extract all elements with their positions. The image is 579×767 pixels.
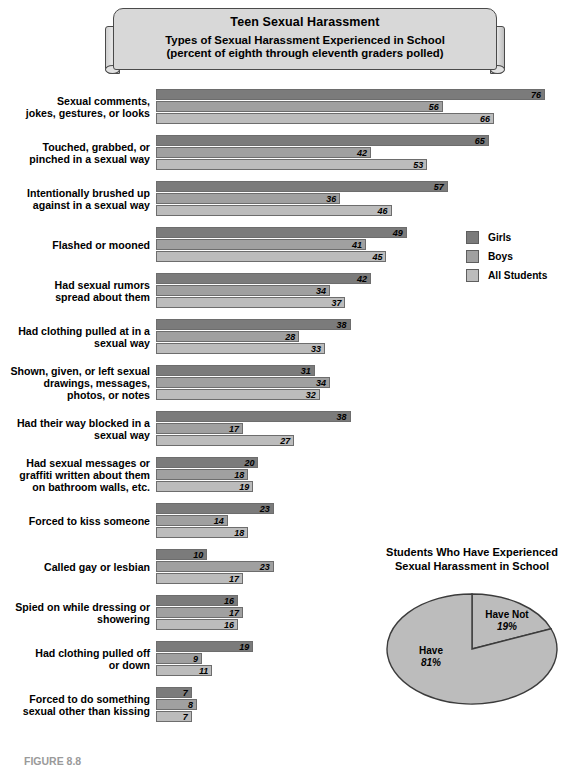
bar-stack: 765666 xyxy=(156,89,545,125)
bar-value-label: 49 xyxy=(393,228,403,237)
bar-group-label-line: Spied on while dressing or xyxy=(0,601,150,613)
bar-stack: 161716 xyxy=(156,595,243,631)
bar: 33 xyxy=(156,343,325,354)
chart-title: Teen Sexual Harassment xyxy=(230,15,379,30)
bar-group-label-line: Called gay or lesbian xyxy=(0,561,150,573)
legend-item: All Students xyxy=(466,266,547,285)
bar-group-label: Called gay or lesbian xyxy=(0,561,150,573)
bar: 8 xyxy=(156,699,197,710)
bar-value-label: 23 xyxy=(260,504,270,513)
bar-value-label: 46 xyxy=(378,206,388,215)
chart-subtitle-line2: (percent of eighth through eleventh grad… xyxy=(165,47,445,60)
bar-value-label: 38 xyxy=(337,320,347,329)
bar-group: Shown, given, or left sexualdrawings, me… xyxy=(0,360,579,406)
bar-value-label: 34 xyxy=(316,286,326,295)
bar: 10 xyxy=(156,549,207,560)
bar-value-label: 8 xyxy=(188,700,193,709)
bar-group-label-line: showering xyxy=(0,613,150,625)
bar-stack: 654253 xyxy=(156,135,489,171)
banner-plate: Teen Sexual Harassment Types of Sexual H… xyxy=(113,8,497,70)
bar-group: Had their way blocked in asexual way3817… xyxy=(0,406,579,452)
bar-value-label: 31 xyxy=(301,366,311,375)
bar-value-label: 37 xyxy=(331,298,341,307)
bar-group: Touched, grabbed, orpinched in a sexual … xyxy=(0,130,579,176)
bar: 32 xyxy=(156,389,320,400)
bar-value-label: 32 xyxy=(306,390,316,399)
bar: 76 xyxy=(156,89,545,100)
bar: 7 xyxy=(156,711,192,722)
bar: 23 xyxy=(156,561,274,572)
bar-value-label: 20 xyxy=(244,458,254,467)
bar-group-label-line: Shown, given, or left sexual xyxy=(0,365,150,377)
pie-chart-block: Students Who Have Experienced Sexual Har… xyxy=(372,546,572,705)
bar-group-label-line: Forced to do something xyxy=(0,693,150,705)
bar-group-label: Had sexual rumorsspread about them xyxy=(0,279,150,303)
bar-value-label: 7 xyxy=(183,712,188,721)
bar-value-label: 11 xyxy=(199,666,208,675)
bar: 38 xyxy=(156,411,351,422)
bar: 20 xyxy=(156,457,258,468)
bar: 41 xyxy=(156,239,366,250)
bar-value-label: 65 xyxy=(475,136,485,145)
bar: 38 xyxy=(156,319,351,330)
bar-stack: 382833 xyxy=(156,319,351,355)
bar-stack: 381727 xyxy=(156,411,351,447)
pie-label-have-name: Have xyxy=(400,645,462,657)
legend-label: All Students xyxy=(488,270,547,281)
bar: 28 xyxy=(156,331,299,342)
bar: 14 xyxy=(156,515,228,526)
bar-group-label-line: on bathroom walls, etc. xyxy=(0,481,150,493)
bar-value-label: 14 xyxy=(214,516,224,525)
bar-group-label: Flashed or mooned xyxy=(0,239,150,251)
bar-group-label: Forced to do somethingsexual other than … xyxy=(0,693,150,717)
bar-group-label-line: Had clothing pulled at in a xyxy=(0,325,150,337)
chart-subtitle-line1: Types of Sexual Harassment Experienced i… xyxy=(165,34,445,47)
bar: 18 xyxy=(156,527,248,538)
bar: 16 xyxy=(156,619,238,630)
bar-value-label: 9 xyxy=(193,654,198,663)
bar-stack: 19911 xyxy=(156,641,253,677)
bar-value-label: 66 xyxy=(480,114,490,123)
bar-group-label-line: Had sexual rumors xyxy=(0,279,150,291)
bar: 66 xyxy=(156,113,494,124)
pie-chart-title: Students Who Have Experienced Sexual Har… xyxy=(372,546,572,573)
pie-title-line2: Sexual Harassment in School xyxy=(372,560,572,574)
bar: 18 xyxy=(156,469,248,480)
bar-value-label: 53 xyxy=(413,160,423,169)
bar: 17 xyxy=(156,423,243,434)
bar-stack: 201819 xyxy=(156,457,258,493)
bar-value-label: 41 xyxy=(352,240,362,249)
legend-label: Boys xyxy=(488,251,513,262)
bar-group: Had sexual messages orgraffiti written a… xyxy=(0,452,579,498)
bar-group: Intentionally brushed upagainst in a sex… xyxy=(0,176,579,222)
bar-stack: 231418 xyxy=(156,503,274,539)
bar-group-label-line: Forced to kiss someone xyxy=(0,515,150,527)
bar-value-label: 28 xyxy=(285,332,295,341)
bar: 34 xyxy=(156,377,330,388)
chart-subtitle: Types of Sexual Harassment Experienced i… xyxy=(165,34,445,60)
bar-group-label-line: graffiti written about them xyxy=(0,469,150,481)
pie-label-have-not-value: 19% xyxy=(472,621,542,633)
bar: 57 xyxy=(156,181,448,192)
bar-group-label: Intentionally brushed upagainst in a sex… xyxy=(0,187,150,211)
bar-value-label: 16 xyxy=(224,620,234,629)
bar-group-label: Had their way blocked in asexual way xyxy=(0,417,150,441)
bar: 27 xyxy=(156,435,294,446)
bar: 37 xyxy=(156,297,345,308)
pie-label-have-not-name: Have Not xyxy=(472,609,542,621)
pie-chart: Have 81% Have Not 19% xyxy=(386,593,558,705)
bar-group-label-line: Intentionally brushed up xyxy=(0,187,150,199)
bar-value-label: 19 xyxy=(239,482,249,491)
bar-stack: 787 xyxy=(156,687,197,723)
bar: 31 xyxy=(156,365,315,376)
bar: 36 xyxy=(156,193,340,204)
bar-group-label: Had clothing pulled at in asexual way xyxy=(0,325,150,349)
bar-group-label-line: Sexual comments, xyxy=(0,95,150,107)
bar: 23 xyxy=(156,503,274,514)
bar: 42 xyxy=(156,273,371,284)
bar-group-label-line: against in a sexual way xyxy=(0,199,150,211)
bar-group-label: Shown, given, or left sexualdrawings, me… xyxy=(0,365,150,402)
bar-value-label: 17 xyxy=(229,574,239,583)
bar: 56 xyxy=(156,101,443,112)
bar-value-label: 10 xyxy=(193,550,203,559)
